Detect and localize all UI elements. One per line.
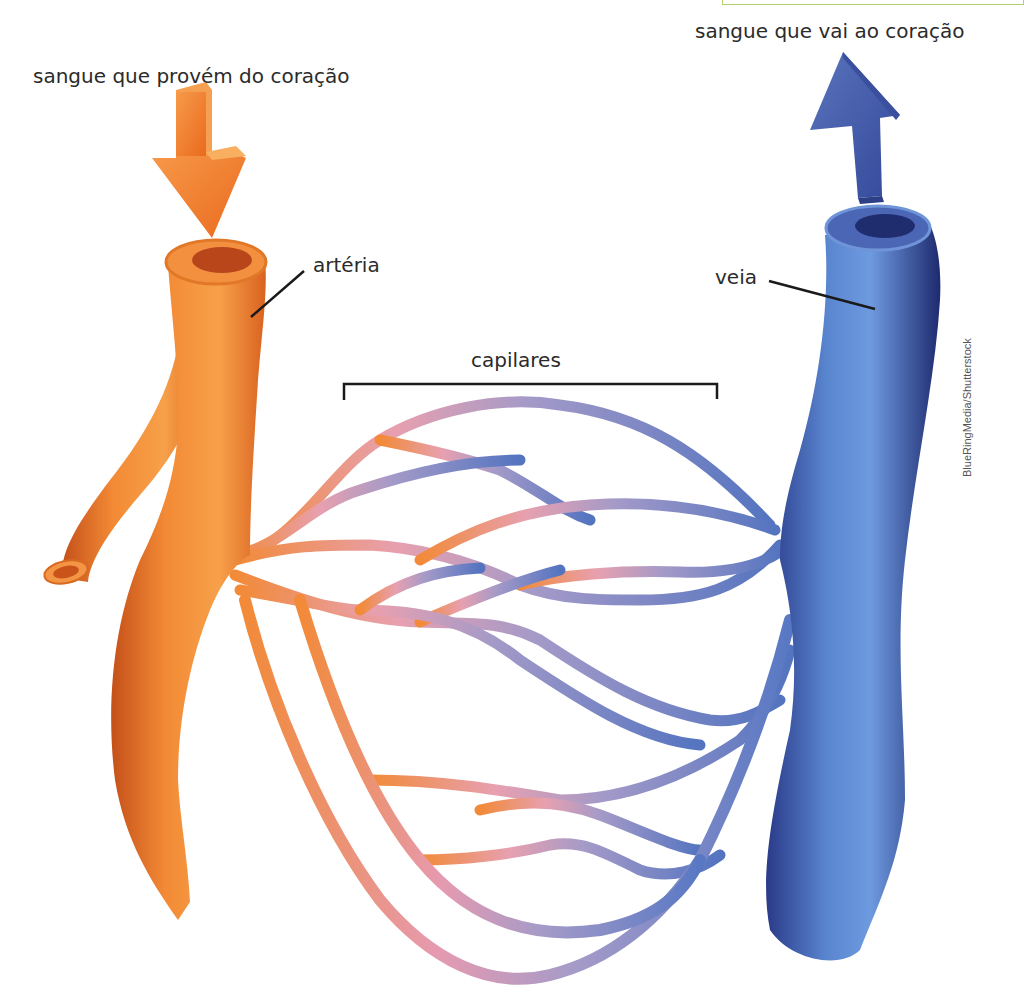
arrow-up-icon bbox=[810, 52, 900, 204]
arrow-down-icon bbox=[152, 82, 246, 238]
capillary bbox=[420, 504, 775, 560]
label-blood-to-heart: sangue que vai ao coração bbox=[695, 19, 964, 43]
image-credit: BlueRingMedia/Shutterstock bbox=[961, 338, 973, 477]
vein-trunk bbox=[766, 225, 940, 960]
capillary-network bbox=[235, 402, 790, 979]
label-artery: artéria bbox=[313, 253, 380, 277]
label-blood-from-heart: sangue que provém do coração bbox=[33, 64, 350, 88]
label-capillaries: capilares bbox=[471, 348, 561, 372]
capillary bbox=[235, 402, 770, 560]
label-vein: veia bbox=[715, 265, 757, 289]
